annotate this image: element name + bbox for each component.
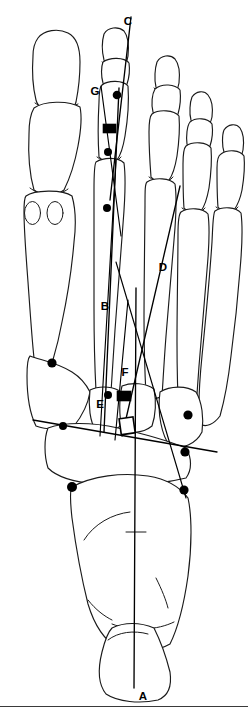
third-proximal-phalanx (149, 111, 179, 182)
axis-label-F: F (121, 366, 128, 378)
ref-dot-first-metatarsal-head (47, 358, 56, 367)
fifth-proximal-phalanx (217, 151, 244, 212)
ref-dot-distal-phalanx (113, 91, 122, 100)
axis-label-E: E (96, 398, 104, 410)
first-metatarsal (24, 191, 75, 364)
hallux-distal-phalanx (33, 30, 80, 113)
footer-divider (0, 706, 248, 707)
ref-dot-cuboid (183, 410, 192, 419)
fourth-proximal-phalanx (183, 143, 211, 213)
cuboid (159, 387, 203, 447)
third-metatarsal (144, 179, 176, 399)
hallux-proximal-phalanx (29, 102, 81, 194)
axis-label-G: G (91, 85, 100, 97)
axis-label-C: C (124, 15, 132, 27)
tarsal-angle-square (119, 417, 135, 435)
phalangeal-angle-block (103, 124, 116, 133)
ref-dot-navicular (67, 482, 77, 492)
foot-radiograph-tracing: A B C D E F G (0, 0, 248, 715)
metatarsal-angle-block (117, 391, 131, 401)
ref-dot-lateral-midfoot (180, 447, 189, 456)
axis-label-B: B (101, 300, 109, 312)
figure-root: A B C D E F G (0, 0, 248, 715)
ref-dot-proximal-phalanx (104, 148, 112, 156)
axis-label-D: D (159, 261, 167, 273)
ref-dot-second-metatarsal-base (104, 391, 112, 399)
ref-dot-lateral-hindfoot (179, 485, 188, 494)
ref-dot-metatarsal-head (103, 204, 111, 212)
axis-label-A: A (139, 690, 147, 702)
ref-dot-first-metatarsal-base (59, 422, 67, 430)
medial-cuneiform (27, 356, 90, 429)
